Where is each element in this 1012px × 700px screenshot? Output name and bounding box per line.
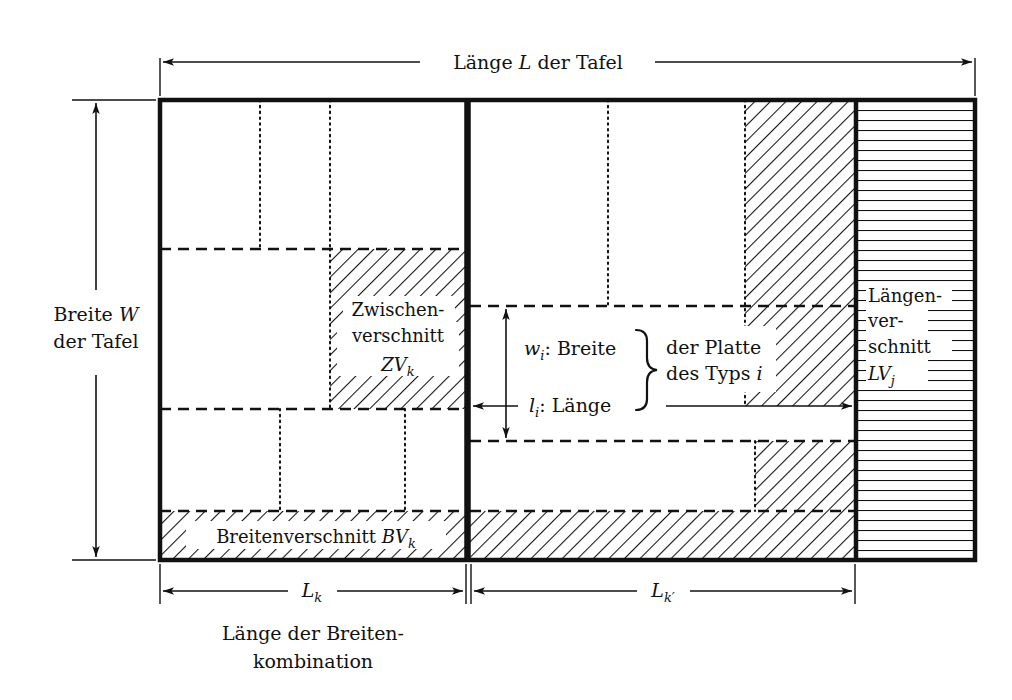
breitenverschnitt-label: Breitenverschnitt BVk [186, 521, 446, 551]
plate-brace-line2: des Typs i [666, 362, 763, 384]
caption-line1: Länge der Breiten- [222, 622, 404, 644]
caption-line2: kombination [253, 650, 373, 672]
zv-line1: Zwischen- [352, 299, 445, 320]
left-dimension-label-line1: Breite W [54, 303, 140, 325]
cutting-stock-diagram: Länge L der Tafel Breite W der Tafel Zwi… [0, 0, 1012, 700]
top-dimension-label: Länge L der Tafel [453, 51, 623, 73]
breitenverschnitt-region-right [470, 511, 855, 560]
plate-brace-line1: der Platte [666, 336, 761, 358]
lv-line3: schnitt [868, 336, 931, 357]
right-lower-waste-region [755, 441, 855, 511]
diagram-canvas: Länge L der Tafel Breite W der Tafel Zwi… [0, 0, 1012, 700]
lv-line2: ver- [867, 310, 904, 331]
zv-line2: verschnitt [351, 325, 445, 346]
left-dimension-label-line2: der Tafel [53, 330, 138, 352]
zwischenverschnitt-label: Zwischen- verschnitt ZVk [337, 296, 459, 379]
lv-line1: Längen- [868, 285, 942, 306]
